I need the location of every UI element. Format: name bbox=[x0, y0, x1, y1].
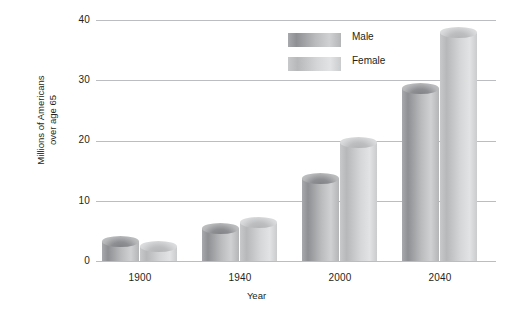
bar-female-1900 bbox=[140, 246, 177, 261]
x-tick-label-2040: 2040 bbox=[410, 272, 470, 283]
bar-female-2040 bbox=[440, 32, 477, 261]
legend-label-male: Male bbox=[352, 31, 374, 42]
bar-body bbox=[440, 32, 477, 261]
legend-label-female: Female bbox=[352, 55, 385, 66]
y-tick-label: 10 bbox=[56, 195, 90, 206]
bar-male-2040 bbox=[402, 88, 439, 261]
bar-female-2000 bbox=[340, 142, 377, 261]
legend-swatch-female-icon bbox=[288, 57, 341, 71]
bar-group-1900 bbox=[102, 20, 178, 261]
bar-cap bbox=[140, 241, 177, 252]
bar-female-1940 bbox=[240, 222, 277, 261]
y-axis-tick-labels: 40 30 20 10 0 bbox=[56, 0, 90, 317]
gridline-0 bbox=[96, 261, 496, 262]
x-tick-label-1940: 1940 bbox=[210, 272, 270, 283]
bar-male-2000 bbox=[302, 178, 339, 261]
y-tick-label: 0 bbox=[56, 255, 90, 266]
y-tick-label: 40 bbox=[56, 14, 90, 25]
bar-cap bbox=[302, 173, 339, 184]
bar-cap bbox=[240, 217, 277, 228]
bar-chart: Millions of Americans over age 65 40 30 … bbox=[0, 0, 513, 317]
bar-body bbox=[302, 178, 339, 261]
bar-male-1900 bbox=[102, 241, 139, 261]
y-axis-title-line1: Millions of Americans bbox=[35, 45, 47, 195]
bar-cap bbox=[440, 27, 477, 38]
legend-swatch-male-icon bbox=[288, 33, 341, 47]
x-tick-label-1900: 1900 bbox=[110, 272, 170, 283]
bar-cap bbox=[340, 137, 377, 148]
y-tick-label: 30 bbox=[56, 74, 90, 85]
bar-cap bbox=[102, 236, 139, 247]
bar-cap bbox=[402, 83, 439, 94]
bar-group-1940 bbox=[202, 20, 278, 261]
bar-body bbox=[340, 142, 377, 261]
x-tick-label-2000: 2000 bbox=[310, 272, 370, 283]
x-axis-title: Year bbox=[0, 290, 513, 301]
bar-male-1940 bbox=[202, 228, 239, 261]
bar-cap bbox=[202, 223, 239, 234]
bar-body bbox=[402, 88, 439, 261]
y-tick-label: 20 bbox=[56, 134, 90, 145]
bar-group-2040 bbox=[402, 20, 478, 261]
